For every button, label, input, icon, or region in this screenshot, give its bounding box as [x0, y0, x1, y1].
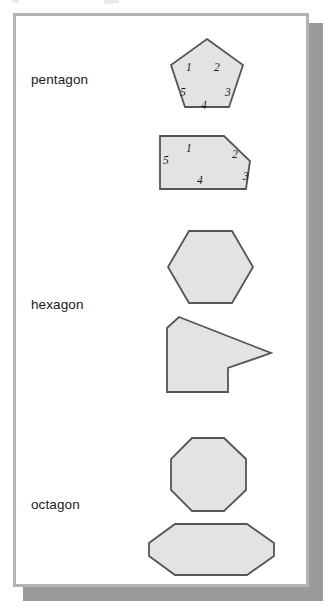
- figure-page: pentagon hexagon octagon 1234512345: [0, 0, 334, 613]
- row-label-pentagon: pentagon: [31, 72, 88, 87]
- side-number-regular-pentagon-5: 5: [180, 86, 186, 98]
- polygon-regular-hexagon: [168, 231, 253, 303]
- side-number-regular-pentagon-3: 3: [225, 86, 231, 98]
- row-label-hexagon: hexagon: [31, 297, 84, 312]
- side-number-irregular-pentagon-5: 5: [163, 154, 169, 166]
- polygon-concave-hexagon: [167, 317, 271, 392]
- row-label-octagon: octagon: [31, 497, 80, 512]
- side-number-regular-pentagon-1: 1: [186, 61, 192, 73]
- polygon-irregular-pentagon: [160, 136, 250, 189]
- side-number-regular-pentagon-4: 4: [201, 99, 207, 111]
- side-number-irregular-pentagon-4: 4: [197, 174, 203, 186]
- side-number-regular-pentagon-2: 2: [214, 61, 220, 73]
- polygon-regular-octagon: [171, 438, 246, 511]
- side-number-irregular-pentagon-1: 1: [186, 142, 192, 154]
- side-number-irregular-pentagon-3: 3: [243, 170, 249, 182]
- side-number-irregular-pentagon-2: 2: [232, 148, 238, 160]
- polygon-elongated-octagon: [149, 524, 274, 575]
